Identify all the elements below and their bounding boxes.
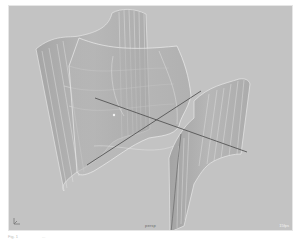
camera-label: persp <box>145 223 156 228</box>
pivot-point <box>113 114 115 116</box>
scene[interactable] <box>9 6 293 231</box>
axis-gizmo-icon <box>12 216 22 226</box>
footer-left-text: Fig. 1 <box>8 234 18 239</box>
3d-viewport[interactable]: persp 15fps <box>8 5 293 231</box>
hud-label: 15fps <box>279 223 289 228</box>
footer: Fig. 1 ... <box>0 232 299 241</box>
footer-right-text: ... <box>42 234 45 239</box>
